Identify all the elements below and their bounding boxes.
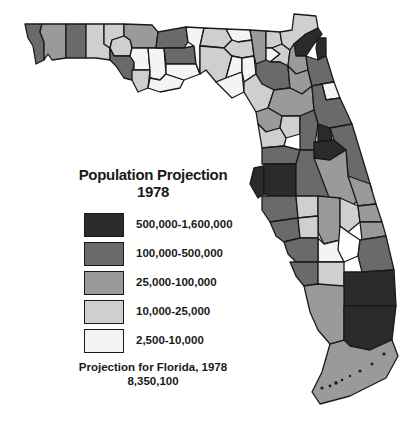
legend-swatch: [84, 300, 124, 324]
projection-footnote: Projection for Florida, 1978 8,350,100: [48, 360, 258, 388]
county-collier: [304, 284, 344, 344]
legend-title-line2: 1978: [58, 183, 248, 200]
legend-label: 2,500-10,000: [136, 334, 204, 346]
county-highlands: [318, 196, 340, 244]
legend-label: 500,000-1,600,000: [136, 218, 233, 230]
legend-title-line1: Population Projection: [58, 166, 248, 183]
county-charlotte: [284, 238, 318, 262]
county-lee: [290, 262, 318, 286]
legend-title: Population Projection 1978: [58, 166, 248, 200]
county-pinellas: [250, 166, 264, 198]
legend-label: 10,000-25,000: [136, 305, 210, 317]
county-santa-rosa: [40, 24, 66, 60]
county-pasco: [262, 146, 300, 164]
county-hillsborough: [264, 164, 296, 196]
legend-swatch: [84, 271, 124, 295]
county-sarasota: [270, 218, 300, 242]
county-hardee: [296, 196, 318, 218]
county-manatee: [262, 196, 298, 222]
county-washington: [110, 36, 132, 56]
county-gadsden: [156, 27, 188, 48]
legend-swatch: [84, 242, 124, 266]
legend-swatch: [84, 329, 124, 353]
county-okaloosa: [66, 24, 86, 58]
legend-label: 25,000-100,000: [136, 276, 217, 288]
county-desoto: [298, 216, 318, 238]
footnote-total: 8,350,100: [48, 374, 258, 388]
legend-label: 100,000-500,000: [136, 247, 223, 259]
county-palm-beach: [358, 236, 394, 272]
legend-swatch: [84, 213, 124, 237]
county-hendry: [318, 262, 344, 286]
county-liberty: [148, 48, 166, 80]
county-monroe-keys: [312, 340, 398, 404]
footnote-line1: Projection for Florida, 1978: [48, 360, 258, 374]
county-broward: [344, 270, 396, 306]
county-leon: [164, 46, 196, 64]
county-gulf: [132, 70, 150, 92]
county-st-lucie: [358, 204, 382, 222]
